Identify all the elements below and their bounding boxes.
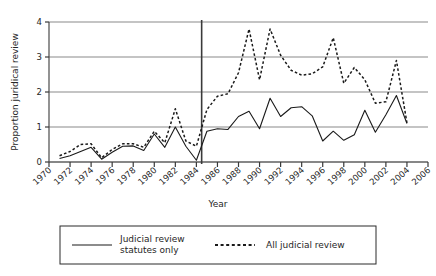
x-tick-label-1976: 1976 <box>94 165 117 187</box>
x-tick-label-1982: 1982 <box>157 165 180 187</box>
x-tick-label-1970: 1970 <box>31 165 54 187</box>
x-axis-ticks <box>49 162 428 167</box>
y-axis-title: Proportion juridical review <box>10 33 20 151</box>
x-tick-label-1994: 1994 <box>283 165 306 187</box>
chart-figure: 01234 1970197219741976197819801982198419… <box>0 0 436 276</box>
x-axis-title: Year <box>207 199 227 209</box>
y-tick-label-4: 4 <box>37 17 42 27</box>
x-tick-label-1974: 1974 <box>73 165 96 187</box>
y-tick-label-1: 1 <box>37 122 42 132</box>
x-axis-tick-labels: 1970197219741976197819801982198419861988… <box>31 165 433 187</box>
y-axis-tick-labels: 01234 <box>37 17 42 167</box>
y-tick-label-3: 3 <box>37 52 42 62</box>
line-chart-svg: 01234 1970197219741976197819801982198419… <box>0 0 436 276</box>
x-tick-label-1988: 1988 <box>220 165 243 187</box>
x-tick-label-1986: 1986 <box>199 165 222 187</box>
series-line-all-judicial-review <box>60 29 407 158</box>
x-tick-label-2002: 2002 <box>367 165 390 187</box>
x-tick-label-2004: 2004 <box>389 165 412 187</box>
y-tick-label-2: 2 <box>37 87 42 97</box>
y-gridlines <box>49 22 428 162</box>
x-tick-label-1980: 1980 <box>136 165 159 187</box>
x-tick-label-1978: 1978 <box>115 165 138 187</box>
y-tick-label-0: 0 <box>37 157 42 167</box>
x-tick-label-1992: 1992 <box>262 165 285 187</box>
x-tick-label-1998: 1998 <box>325 165 348 187</box>
legend-label-judicial-review-statutes-only-line2: statutes only <box>120 245 179 255</box>
legend-label-all-judicial-review: All judicial review <box>266 240 345 250</box>
x-tick-label-1990: 1990 <box>241 165 264 187</box>
x-tick-label-1996: 1996 <box>304 165 327 187</box>
x-tick-label-2000: 2000 <box>346 165 369 187</box>
x-tick-label-2006: 2006 <box>410 165 433 187</box>
legend-label-judicial-review-statutes-only-line1: Judicial review <box>119 234 185 244</box>
x-tick-label-1984: 1984 <box>178 165 201 187</box>
x-tick-label-1972: 1972 <box>52 165 75 187</box>
